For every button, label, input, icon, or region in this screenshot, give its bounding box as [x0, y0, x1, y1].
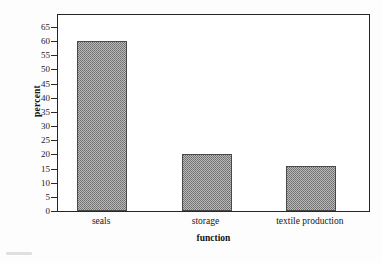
x-tick-label: textile production: [276, 215, 343, 228]
bar: [286, 166, 336, 211]
y-tick-label: 30: [24, 122, 50, 131]
y-tick-label: 0: [24, 207, 50, 216]
y-tick-mark: [51, 41, 57, 42]
x-axis-title: function: [57, 233, 370, 243]
y-tick-label: 5: [24, 192, 50, 201]
x-axis-category-labels: sealsstoragetextile production: [57, 215, 370, 231]
y-tick-mark: [51, 126, 57, 127]
plot-area: [57, 14, 370, 212]
y-tick-mark: [51, 69, 57, 70]
y-tick-label: 50: [24, 65, 50, 74]
y-tick-mark: [51, 211, 57, 212]
y-tick-mark: [51, 112, 57, 113]
bars-container: [58, 15, 369, 211]
y-tick-label: 60: [24, 37, 50, 46]
y-tick-mark: [51, 84, 57, 85]
y-tick-label: 40: [24, 93, 50, 102]
y-tick-mark: [51, 197, 57, 198]
bar: [182, 154, 232, 211]
x-tick-label: seals: [92, 215, 110, 228]
y-tick-label: 25: [24, 136, 50, 145]
y-tick-label: 55: [24, 51, 50, 60]
y-tick-label: 65: [24, 23, 50, 32]
y-tick-mark: [51, 169, 57, 170]
y-tick-mark: [51, 27, 57, 28]
y-tick-mark: [51, 140, 57, 141]
y-tick-label: 10: [24, 178, 50, 187]
y-axis-tick-labels: 05101520253035404550556065: [24, 20, 50, 216]
y-tick-mark: [51, 154, 57, 155]
y-tick-label: 35: [24, 107, 50, 116]
x-tick-label: storage: [192, 215, 219, 228]
y-tick-label: 20: [24, 150, 50, 159]
scan-artifact: [6, 252, 32, 255]
y-tick-label: 45: [24, 79, 50, 88]
bar-chart: percent 05101520253035404550556065 seals…: [0, 0, 382, 263]
y-tick-mark: [51, 55, 57, 56]
y-tick-mark: [51, 183, 57, 184]
y-tick-mark: [51, 98, 57, 99]
y-tick-label: 15: [24, 164, 50, 173]
bar: [77, 41, 127, 211]
